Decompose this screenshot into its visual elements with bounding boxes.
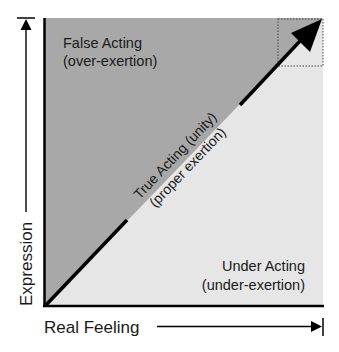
y-axis-label: Expression <box>17 222 36 306</box>
false-acting-title: False Acting <box>63 35 142 51</box>
y-axis-arrowhead-icon <box>21 19 32 30</box>
x-axis-arrowhead-icon <box>311 321 322 332</box>
x-axis-label: Real Feeling <box>44 318 139 337</box>
false-acting-subtitle: (over-exertion) <box>63 53 157 69</box>
under-acting-title: Under Acting <box>222 258 305 274</box>
under-acting-subtitle: (under-exertion) <box>202 277 305 293</box>
acting-diagram: False Acting (over-exertion) Under Actin… <box>0 0 339 352</box>
